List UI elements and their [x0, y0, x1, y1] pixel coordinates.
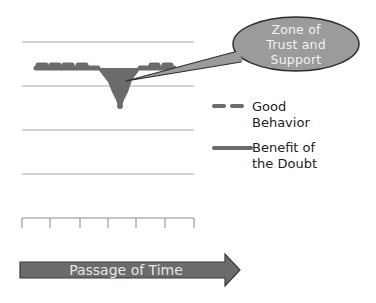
legend-label-line-2: the Doubt [252, 156, 317, 172]
time-axis [22, 218, 194, 228]
legend-markers [214, 106, 251, 148]
benefit-of-doubt-dip [97, 68, 141, 109]
good-behavior-line [36, 65, 174, 68]
legend-item-good-behavior: Good Behavior [252, 99, 310, 131]
grid-lines [22, 42, 194, 174]
callout-line-1: Zone of [244, 22, 348, 37]
legend-item-benefit-of-doubt: Benefit of the Doubt [252, 140, 317, 172]
legend-label-line-2: Behavior [252, 115, 310, 131]
callout-line-3: Support [244, 52, 348, 67]
callout-line-2: Trust and [244, 37, 348, 52]
time-arrow-label: Passage of Time [36, 261, 216, 279]
callout-text: Zone of Trust and Support [244, 22, 348, 67]
legend-label-line-1: Good [252, 99, 310, 115]
legend-label-line-1: Benefit of [252, 140, 317, 156]
